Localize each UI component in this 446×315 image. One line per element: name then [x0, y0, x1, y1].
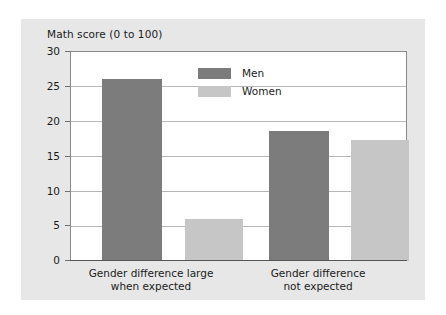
y-tick-label-10: 10 [34, 185, 60, 197]
y-tick-label-0: 0 [34, 254, 60, 266]
y-tick-mark-0 [65, 260, 70, 261]
legend-swatch-women-icon [198, 86, 231, 97]
y-tick-mark-15 [65, 156, 70, 157]
legend-label-women: Women [242, 85, 282, 97]
y-tick-mark-5 [65, 225, 70, 226]
y-tick-mark-10 [65, 191, 70, 192]
y-tick-mark-25 [65, 86, 70, 87]
chart-legend: Men Women [198, 64, 282, 100]
y-tick-label-25: 25 [34, 80, 60, 92]
x-axis-line [70, 260, 407, 261]
y-tick-label-20: 20 [34, 115, 60, 127]
bar-men-gender-difference-not-expected [269, 131, 329, 261]
y-tick-label-15: 15 [34, 150, 60, 162]
legend-item-men: Men [198, 64, 282, 82]
legend-swatch-men-icon [198, 68, 231, 79]
y-tick-mark-30 [65, 51, 70, 52]
chart-figure: Math score (0 to 100) 30 25 20 15 10 5 0… [0, 0, 446, 315]
bar-men-gender-difference-large-when-expected [102, 79, 162, 261]
bar-women-gender-difference-not-expected [351, 140, 409, 261]
chart-title: Math score (0 to 100) [47, 28, 162, 40]
bar-women-gender-difference-large-when-expected [185, 219, 243, 261]
category-label-1: Gender difference large when expected [71, 267, 231, 293]
y-tick-label-5: 5 [34, 219, 60, 231]
legend-label-men: Men [242, 67, 264, 79]
category-label-2: Gender difference not expected [248, 267, 388, 293]
y-tick-label-30: 30 [34, 45, 60, 57]
y-tick-mark-20 [65, 121, 70, 122]
legend-item-women: Women [198, 82, 282, 100]
